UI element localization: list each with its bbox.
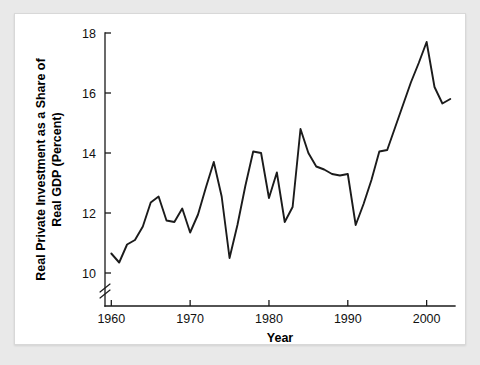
axes xyxy=(100,33,455,306)
y-axis-title-line2: Real GDP (Percent) xyxy=(50,112,64,226)
y-tick-labels: 1012141618 xyxy=(82,27,96,281)
y-tick-label: 16 xyxy=(82,87,96,101)
line-chart: 1012141618 19601970198019902000 Year Rea… xyxy=(15,14,467,346)
x-axis-ticks xyxy=(111,300,426,306)
x-tick-labels: 19601970198019902000 xyxy=(97,312,440,326)
x-tick-label: 1990 xyxy=(334,312,362,326)
figure-plate: 1012141618 19601970198019902000 Year Rea… xyxy=(14,13,466,345)
y-axis-ticks xyxy=(105,33,111,273)
x-axis-title: Year xyxy=(267,331,294,345)
x-tick-label: 1960 xyxy=(97,312,125,326)
y-tick-label: 14 xyxy=(82,147,96,161)
chart-canvas: 1012141618 19601970198019902000 Year Rea… xyxy=(15,14,467,346)
figure-frame: 1012141618 19601970198019902000 Year Rea… xyxy=(0,0,480,365)
y-axis-title-line1: Real Private Investment as a Share of xyxy=(34,58,48,281)
y-tick-label: 10 xyxy=(82,267,96,281)
x-tick-label: 2000 xyxy=(413,312,441,326)
x-tick-label: 1980 xyxy=(255,312,283,326)
y-tick-label: 12 xyxy=(82,207,96,221)
data-series-line xyxy=(111,42,450,263)
y-tick-label: 18 xyxy=(82,27,96,41)
x-tick-label: 1970 xyxy=(176,312,204,326)
